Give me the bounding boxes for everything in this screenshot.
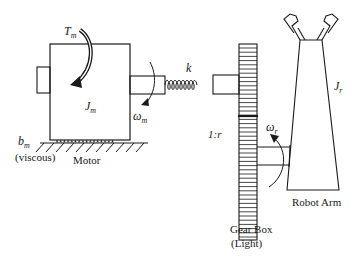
label-motor: Motor: [73, 154, 101, 166]
label-viscous: (viscous): [15, 151, 56, 164]
gear-output-shaft: [257, 145, 291, 167]
label-motor-torque: Tm: [64, 24, 77, 40]
label-gearbox: Gear Box: [230, 223, 273, 235]
label-arm-inertia: Jr: [334, 79, 343, 95]
label-gear-ratio: 1:r: [208, 128, 222, 140]
motor: [37, 44, 165, 140]
motor-output-shaft: [130, 76, 165, 94]
label-motor-speed: ωm: [133, 109, 147, 125]
label-spring: k: [186, 61, 192, 75]
gear-box: [238, 44, 258, 240]
gear-input-shaft: [213, 75, 239, 94]
label-gearbox-light: (Light): [231, 237, 262, 250]
diagram-canvas: Tm Jm ωm k bm (viscous) Motor 1:r ωr Jr …: [0, 0, 359, 259]
arm-speed-arrow-icon: [269, 134, 284, 187]
gripper-right-finger: [322, 14, 338, 40]
label-arm-speed: ωr: [266, 120, 278, 136]
robot-arm: [284, 14, 339, 190]
motor-left-shaft-stub: [37, 67, 50, 93]
spring: [165, 81, 197, 90]
label-motor-inertia: Jm: [85, 99, 96, 115]
motor-speed-arrow-icon: [141, 62, 155, 106]
label-damping: bm: [18, 134, 30, 150]
gripper-left-finger: [284, 14, 300, 40]
label-robot-arm: Robot Arm: [292, 196, 342, 208]
